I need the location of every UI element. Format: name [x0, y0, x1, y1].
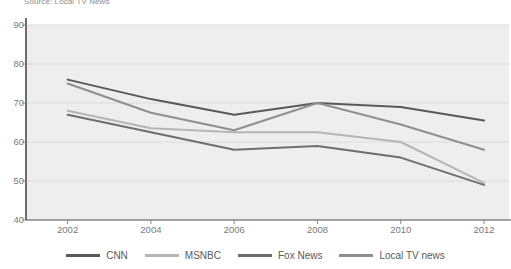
- legend-item[interactable]: MSNBC: [145, 250, 221, 261]
- legend-label: MSNBC: [185, 250, 221, 261]
- x-axis-tick-labels: 200220042006200820102012: [0, 220, 511, 240]
- plot-area: 405060708090 200220042006200820102012: [0, 18, 511, 228]
- x-tick-label: 2002: [57, 224, 78, 235]
- legend-swatch-icon: [238, 254, 272, 257]
- legend-item[interactable]: Fox News: [238, 250, 322, 261]
- legend-item[interactable]: CNN: [66, 250, 128, 261]
- x-tick-label: 2012: [473, 224, 494, 235]
- legend-label: Fox News: [278, 250, 322, 261]
- x-tick-label: 2008: [307, 224, 328, 235]
- source-note: Source: Local TV News: [24, 0, 110, 7]
- legend-swatch-icon: [66, 254, 100, 257]
- x-tick-label: 2006: [224, 224, 245, 235]
- legend-item[interactable]: Local TV news: [339, 250, 444, 261]
- legend-swatch-icon: [339, 254, 373, 257]
- plot-background: [26, 25, 509, 220]
- legend-label: Local TV news: [379, 250, 444, 261]
- x-tick-label: 2010: [390, 224, 411, 235]
- x-tick-label: 2004: [140, 224, 161, 235]
- legend-swatch-icon: [145, 254, 179, 257]
- legend-label: CNN: [106, 250, 128, 261]
- chart-legend: CNNMSNBCFox NewsLocal TV news: [0, 244, 511, 266]
- plot-svg: [0, 18, 511, 228]
- line-chart-figure: Source: Local TV News 405060708090 20022…: [0, 0, 511, 269]
